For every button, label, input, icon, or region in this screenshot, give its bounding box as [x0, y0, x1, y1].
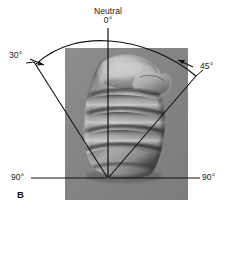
left-angle-label: 30° [9, 51, 22, 60]
left-extreme-label: 90° [11, 173, 24, 182]
left-label-leader [26, 62, 34, 63]
range-of-motion-figure: Neutral 0° 30° 45° 90° 90° B [0, 0, 231, 258]
right-extreme-label: 90° [202, 173, 215, 182]
neutral-value: 0° [94, 16, 122, 25]
neutral-label-group: Neutral 0° [94, 7, 122, 25]
figure-canvas [0, 0, 231, 258]
right-angle-label: 45° [200, 62, 213, 71]
panel-letter: B [17, 189, 24, 200]
